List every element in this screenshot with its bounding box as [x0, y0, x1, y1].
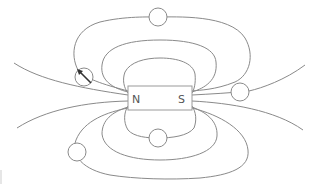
compass-lower-left: [68, 143, 86, 161]
compass-upper-left: [75, 68, 93, 86]
north-pole-label: N: [132, 93, 140, 106]
field-line-upper-middle: [102, 40, 216, 92]
compasses: [68, 8, 249, 161]
compass-top: [149, 8, 167, 26]
field-line-open-upper-left: [14, 63, 128, 95]
upper-field-loops: [74, 17, 250, 93]
compass-bottom: [149, 129, 167, 147]
south-pole-label: S: [178, 93, 185, 106]
edge-artifact: [0, 170, 2, 184]
field-line-upper-outer: [74, 17, 250, 91]
bar-magnet: N S: [128, 86, 192, 110]
compass-right: [231, 83, 249, 101]
magnetic-field-diagram: N S: [0, 0, 321, 189]
field-line-open-lower-right: [192, 101, 303, 130]
field-line-open-lower-left: [17, 101, 128, 128]
